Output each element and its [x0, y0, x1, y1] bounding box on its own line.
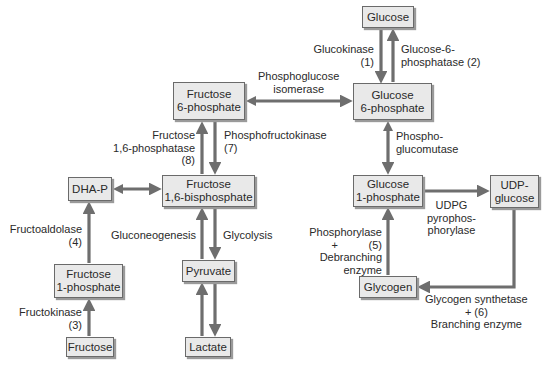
label-glucokinase: Glucokinase (1): [313, 43, 374, 68]
node-label: Fructose: [186, 178, 231, 191]
node-label: UDP-: [500, 179, 528, 192]
node-label: Pyruvate: [186, 265, 231, 278]
node-pyruvate: Pyruvate: [182, 260, 235, 282]
node-lactate: Lactate: [185, 337, 231, 357]
arrowhead-isomerase-left: [246, 96, 256, 106]
label-phosphofructokinase: Phosphofructokinase (7): [224, 129, 327, 154]
label-gluconeogenesis: Gluconeogenesis: [111, 229, 196, 242]
label-phosphoglucose-isomerase: Phosphoglucose isomerase: [258, 70, 339, 95]
label-fructoaldolase: Fructoaldolase (4): [10, 223, 82, 248]
node-fructose-16-bisphosphate: Fructose 1,6-bisphosphate: [162, 175, 255, 207]
node-label: DHA-P: [72, 183, 108, 196]
label-fructose-16-phosphatase: Fructose 1,6-phosphatase (8): [113, 129, 195, 167]
label-glucose-6-phosphatase: Glucose-6- phosphatase (2): [401, 43, 481, 68]
node-label: Glucose: [371, 89, 413, 102]
label-glycogen-synthetase: Glycogen synthetase + (6) Branching enzy…: [425, 293, 528, 331]
node-fructose-1-phosphate: Fructose 1-phosphate: [54, 264, 123, 298]
node-label: 1-phosphate: [356, 191, 420, 204]
node-glucose: Glucose: [362, 6, 414, 28]
label-fructokinase: Fructokinase (3): [19, 306, 82, 331]
node-fructose-6-phosphate: Fructose 6-phosphate: [173, 82, 245, 120]
label-phosphorylase: Phosphorylase + (5) Debranching enzyme: [309, 226, 382, 276]
node-label: glucose: [495, 192, 535, 205]
node-dhap: DHA-P: [68, 177, 112, 201]
node-label: Fructose: [68, 341, 113, 354]
node-label: Fructose: [66, 268, 111, 281]
node-glucose-1-phosphate: Glucose 1-phosphate: [353, 175, 423, 207]
label-glycolysis: Glycolysis: [223, 229, 273, 242]
node-fructose: Fructose: [66, 337, 114, 357]
node-label: Lactate: [189, 341, 227, 354]
node-label: 1-phosphate: [57, 281, 121, 294]
node-glucose-6-phosphate: Glucose 6-phosphate: [353, 83, 432, 120]
node-label: Fructose: [187, 88, 232, 101]
arrowhead-dhap-left: [113, 184, 123, 194]
node-udp-glucose: UDP- glucose: [490, 175, 539, 208]
node-label: Glucose: [367, 178, 409, 191]
node-label: 1,6-bisphosphate: [164, 191, 252, 204]
node-label: 6-phosphate: [177, 101, 241, 114]
label-phosphoglucomutase: Phospho- glucomutase: [396, 130, 458, 155]
node-label: Glycogen: [364, 281, 413, 294]
label-udpg-pyrophosphorylase: UDPG pyrophos- phorylase: [427, 199, 476, 237]
node-glycogen: Glycogen: [359, 276, 417, 298]
node-label: Glucose: [367, 11, 409, 24]
arrowhead-mutase-up: [383, 121, 393, 131]
node-label: 6-phosphate: [361, 102, 425, 115]
